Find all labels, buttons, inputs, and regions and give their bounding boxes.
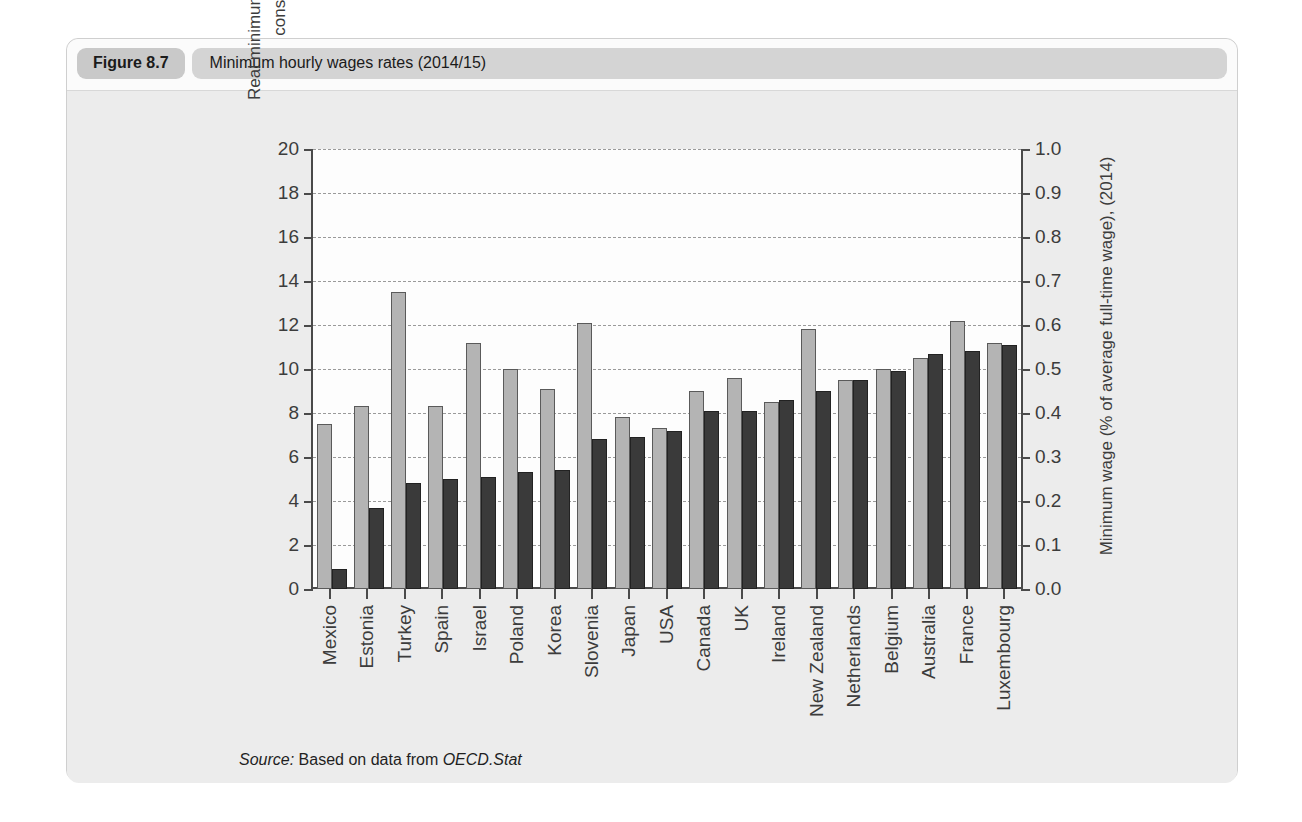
bar-real-minimum-wage: [764, 402, 779, 589]
x-axis-category-label: Korea: [544, 605, 566, 656]
bar-real-minimum-wage: [913, 358, 928, 589]
x-axis-tick: [329, 589, 331, 599]
x-axis-category-label: Luxembourg: [993, 605, 1015, 711]
source-label: Source:: [239, 751, 294, 768]
x-axis-tick: [591, 589, 593, 599]
y-axis-right-tick: [1021, 281, 1030, 283]
bar-minimum-wage-share: [928, 354, 943, 589]
bar-group: [984, 149, 1021, 589]
bar-real-minimum-wage: [838, 380, 853, 589]
bar-minimum-wage-share: [369, 508, 384, 589]
bar-real-minimum-wage: [950, 321, 965, 589]
bar-minimum-wage-share: [630, 437, 645, 589]
x-axis-tick-cell: [461, 589, 498, 599]
bar-series-container: [313, 149, 1021, 589]
x-axis-labels: MexicoEstoniaTurkeySpainIsraelPolandKore…: [311, 601, 1023, 771]
y-axis-left-tick-label: 12: [278, 314, 299, 336]
y-axis-right-tick-label: 0.4: [1035, 402, 1061, 424]
y-axis-right-tick: [1021, 545, 1030, 547]
bar-minimum-wage-share: [891, 371, 906, 589]
bar-real-minimum-wage: [428, 406, 443, 589]
x-axis-tick: [928, 589, 930, 599]
x-axis-tick: [816, 589, 818, 599]
x-axis-category-label: France: [956, 605, 978, 664]
x-axis-category-label: Slovenia: [581, 605, 603, 678]
y-axis-right-tick: [1021, 501, 1030, 503]
x-axis-tick: [703, 589, 705, 599]
x-axis-tick: [404, 589, 406, 599]
x-axis-label-cell: Poland: [498, 601, 535, 771]
x-axis-tick-cell: [423, 589, 460, 599]
y-axis-left-tick: [304, 193, 313, 195]
x-axis-tick-cell: [311, 589, 348, 599]
x-axis-label-cell: Netherlands: [836, 601, 873, 771]
x-axis-category-label: Ireland: [768, 605, 790, 663]
bar-group: [574, 149, 611, 589]
x-axis-label-cell: Belgium: [873, 601, 910, 771]
source-note: Source: Based on data from OECD.Stat: [239, 751, 522, 769]
y-axis-right-tick-label: 1.0: [1035, 138, 1061, 160]
x-axis-tick-cell: [798, 589, 835, 599]
x-axis-tick: [666, 589, 668, 599]
plot-area: 02468101214161820 0.00.10.20.30.40.50.60…: [311, 149, 1023, 589]
bar-minimum-wage-share: [853, 380, 868, 589]
x-axis-tick-cell: [911, 589, 948, 599]
bar-group: [350, 149, 387, 589]
bar-group: [388, 149, 425, 589]
bar-group: [760, 149, 797, 589]
bar-group: [462, 149, 499, 589]
y-axis-left-tick-label: 2: [288, 534, 299, 556]
x-axis-tick-cell: [611, 589, 648, 599]
bar-group: [909, 149, 946, 589]
x-axis-tick: [516, 589, 518, 599]
bar-group: [723, 149, 760, 589]
source-text: Based on data from: [294, 751, 443, 768]
bar-real-minimum-wage: [615, 417, 630, 589]
bar-minimum-wage-share: [1002, 345, 1017, 589]
bar-group: [648, 149, 685, 589]
bar-real-minimum-wage: [987, 343, 1002, 589]
bar-real-minimum-wage: [391, 292, 406, 589]
y-axis-left-tick-label: 6: [288, 446, 299, 468]
y-axis-right-tick-label: 0.5: [1035, 358, 1061, 380]
x-axis-tick-cell: [723, 589, 760, 599]
y-axis-right-tick-label: 0.3: [1035, 446, 1061, 468]
x-axis-label-cell: Ireland: [761, 601, 798, 771]
x-axis-category-label: UK: [731, 605, 753, 631]
y-axis-right-tick: [1021, 149, 1030, 151]
y-axis-left-tick-label: 8: [288, 402, 299, 424]
bar-minimum-wage-share: [779, 400, 794, 589]
x-axis-label-cell: Mexico: [311, 601, 348, 771]
x-axis-label-cell: Israel: [461, 601, 498, 771]
y-axis-right-tick-label: 0.8: [1035, 226, 1061, 248]
y-axis-left-title-line1: Real minimum wage rates ($ per hour at 2…: [243, 0, 268, 148]
x-axis-category-label: Australia: [918, 605, 940, 679]
bar-group: [686, 149, 723, 589]
x-axis-category-label: New Zealand: [806, 605, 828, 717]
bar-real-minimum-wage: [577, 323, 592, 589]
bar-real-minimum-wage: [317, 424, 332, 589]
bar-real-minimum-wage: [727, 378, 742, 589]
bar-real-minimum-wage: [652, 428, 667, 589]
x-axis-tick: [554, 589, 556, 599]
figure-title: Minimum hourly wages rates (2014/15): [192, 48, 1227, 79]
y-axis-left-title-line2: constant prices, PPP) (2015): [268, 0, 293, 148]
x-axis-tick-cell: [386, 589, 423, 599]
x-axis-tick-cell: [985, 589, 1022, 599]
bar-group: [835, 149, 872, 589]
bar-group: [425, 149, 462, 589]
bar-real-minimum-wage: [801, 329, 816, 589]
bar-group: [499, 149, 536, 589]
x-axis-label-cell: Australia: [911, 601, 948, 771]
x-axis-category-label: Japan: [618, 605, 640, 657]
bar-minimum-wage-share: [518, 472, 533, 589]
y-axis-left-tick-label: 18: [278, 182, 299, 204]
y-axis-left-tick: [304, 545, 313, 547]
x-axis-tick-cell: [648, 589, 685, 599]
bar-minimum-wage-share: [592, 439, 607, 589]
x-axis-category-label: Israel: [469, 605, 491, 651]
x-axis-tick-cell: [836, 589, 873, 599]
bar-minimum-wage-share: [406, 483, 421, 589]
y-axis-left-tick: [304, 457, 313, 459]
y-axis-right-title: Minimum wage (% of average full-time wag…: [1097, 121, 1123, 591]
